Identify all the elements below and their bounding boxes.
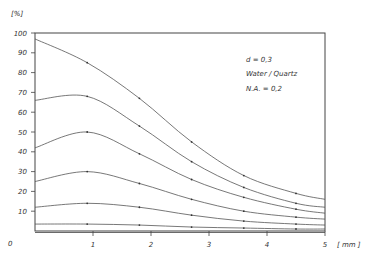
series-curve-2 <box>35 95 325 207</box>
series-curve-3 <box>35 132 325 213</box>
y-tick-label: 80 <box>18 69 27 77</box>
y-tick-label: 100 <box>14 30 28 38</box>
y-tick-label: 40 <box>18 148 27 156</box>
x-tick-label: 2 <box>149 241 154 249</box>
x-tick-label: 1 <box>91 241 95 249</box>
y-tick-label: 90 <box>18 49 27 57</box>
y-tick-label: 60 <box>18 109 27 117</box>
chart: [%] [ mm ] 0 10203040506070809010012345 … <box>0 0 369 261</box>
x-tick-label: 4 <box>265 241 269 249</box>
x-tick-label: 3 <box>207 241 211 249</box>
series-curve-6 <box>35 224 325 229</box>
annotation-d: d = 0,3 <box>246 56 272 64</box>
y-tick-label: 70 <box>18 89 27 97</box>
annotation-box: d = 0,3 Water / Quartz N.A. = 0,2 <box>246 56 297 93</box>
series-curve-1 <box>35 39 325 199</box>
y-tick-label: 50 <box>18 129 27 137</box>
x-tick-label: 5 <box>323 241 328 249</box>
x-axis-label: [ mm ] <box>337 241 361 249</box>
annotation-medium: Water / Quartz <box>246 70 297 78</box>
y-axis-label: [%] <box>11 10 23 18</box>
series-curve-4 <box>35 172 325 220</box>
origin-label: 0 <box>8 240 13 248</box>
annotation-na: N.A. = 0,2 <box>246 85 283 93</box>
y-tick-label: 20 <box>18 188 27 196</box>
y-tick-label: 10 <box>18 208 27 216</box>
y-tick-label: 30 <box>18 168 27 176</box>
data-curves <box>35 39 325 230</box>
